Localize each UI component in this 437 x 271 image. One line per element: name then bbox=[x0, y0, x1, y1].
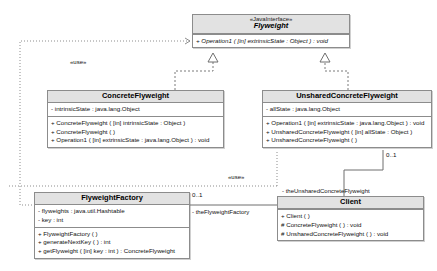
class-box-concrete-flyweight[interactable]: ConcreteFlyweight - intrinsicState : jav… bbox=[47, 90, 224, 148]
class-attributes-unshared-concrete-flyweight: - allState : java.lang.Object bbox=[263, 103, 431, 116]
role-label-unshared: - theUnsharedConcreteFlyweight bbox=[282, 188, 370, 194]
class-header-concrete-flyweight: ConcreteFlyweight bbox=[48, 91, 223, 103]
class-box-flyweight-factory[interactable]: FlyweightFactory - flyweights : java.uti… bbox=[34, 192, 190, 259]
multiplicity-unshared: 0..1 bbox=[386, 152, 396, 158]
operation-row: + generateNextKey ( ) : int bbox=[38, 238, 186, 247]
operation-row: + ConcreteFlyweight ( [in] intrinsicStat… bbox=[51, 119, 220, 128]
operation-row: + Client ( ) bbox=[281, 212, 420, 221]
class-header-flyweight-factory: FlyweightFactory bbox=[35, 193, 189, 205]
realization-concrete-to-flyweight bbox=[175, 53, 218, 90]
realization-unshared-to-flyweight bbox=[320, 53, 348, 90]
class-operations-client: + Client ( ) # ConcreteFlyweight ( ) : v… bbox=[278, 209, 423, 240]
class-title: UnsharedConcreteFlyweight bbox=[265, 92, 429, 100]
class-operations-flyweight: + Operation1 ( [in] extrinsicState : Obj… bbox=[193, 34, 349, 48]
diagram-canvas: «JavaInterface» Flyweight + Operation1 (… bbox=[0, 0, 437, 271]
dependency-label-use-client: «use» bbox=[228, 174, 244, 180]
dependency-label-use-factory: «use» bbox=[70, 59, 86, 65]
class-attributes-concrete-flyweight: - intrinsicState : java.lang.Object bbox=[48, 103, 223, 116]
attribute-row: - key : int bbox=[38, 216, 186, 225]
class-operations-concrete-flyweight: + ConcreteFlyweight ( [in] intrinsicStat… bbox=[48, 116, 223, 147]
class-operations-flyweight-factory: + FlyweightFactory ( ) + generateNextKey… bbox=[35, 227, 189, 258]
operation-row: + UnsharedConcreteFlyweight ( [in] allSt… bbox=[266, 128, 428, 137]
class-title: ConcreteFlyweight bbox=[50, 92, 221, 100]
operation-row: + Operation1 ( [in] extrinsicState : jav… bbox=[266, 119, 428, 128]
class-attributes-flyweight-factory: - flyweights : java.util.Hashtable - key… bbox=[35, 205, 189, 227]
dependency-client-to-flyweight bbox=[8, 150, 277, 186]
class-box-client[interactable]: Client + Client ( ) # ConcreteFlyweight … bbox=[277, 196, 424, 241]
class-header-flyweight: «JavaInterface» Flyweight bbox=[193, 15, 349, 34]
operation-row: + getFlyweight ( [in] key : int ) : Conc… bbox=[38, 247, 186, 256]
multiplicity-factory: 0..1 bbox=[192, 192, 202, 198]
operation-row: + UnsharedConcreteFlyweight ( ) bbox=[266, 136, 428, 145]
class-header-unshared-concrete-flyweight: UnsharedConcreteFlyweight bbox=[263, 91, 431, 103]
operation-row: + ConcreteFlyweight ( ) bbox=[51, 128, 220, 137]
operation-row: + Operation1 ( [in] extrinsicState : jav… bbox=[51, 136, 220, 145]
class-title: Flyweight bbox=[195, 22, 347, 30]
class-title: FlyweightFactory bbox=[37, 194, 187, 202]
class-operations-unshared-concrete-flyweight: + Operation1 ( [in] extrinsicState : jav… bbox=[263, 116, 431, 147]
class-box-unshared-concrete-flyweight[interactable]: UnsharedConcreteFlyweight - allState : j… bbox=[262, 90, 432, 148]
role-label-factory: - theFlyweightFactory bbox=[192, 209, 249, 215]
attribute-row: - flyweights : java.util.Hashtable bbox=[38, 207, 186, 216]
attribute-row: - allState : java.lang.Object bbox=[266, 105, 428, 114]
class-title: Client bbox=[280, 198, 421, 206]
operation-row: + Operation1 ( [in] extrinsicState : Obj… bbox=[196, 37, 346, 46]
class-header-client: Client bbox=[278, 197, 423, 209]
operation-row: # UnsharedConcreteFlyweight ( ) : void bbox=[281, 230, 420, 239]
class-box-flyweight[interactable]: «JavaInterface» Flyweight + Operation1 (… bbox=[192, 14, 350, 48]
operation-row: # ConcreteFlyweight ( ) : void bbox=[281, 221, 420, 230]
operation-row: + FlyweightFactory ( ) bbox=[38, 230, 186, 239]
attribute-row: - intrinsicState : java.lang.Object bbox=[51, 105, 220, 114]
